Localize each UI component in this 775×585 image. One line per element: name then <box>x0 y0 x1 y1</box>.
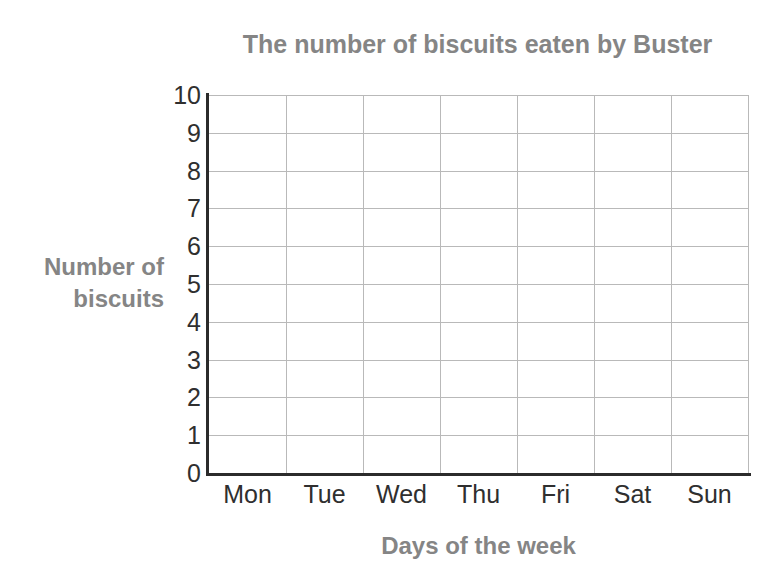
y-tick-label-2: 2 <box>141 385 201 410</box>
plot-area[interactable] <box>209 95 748 473</box>
y-tick-label-9: 9 <box>141 121 201 146</box>
chart-container: The number of biscuits eaten by Buster 1… <box>0 0 775 585</box>
x-tick-label-thu: Thu <box>440 481 517 509</box>
gridline-x-7 <box>748 95 749 473</box>
x-axis-title: Days of the week <box>209 532 748 560</box>
chart-title: The number of biscuits eaten by Buster <box>190 30 765 59</box>
y-tick-label-8: 8 <box>141 159 201 184</box>
x-tick-label-sat: Sat <box>594 481 671 509</box>
y-axis-title-line-1: Number of <box>0 251 164 283</box>
x-axis-line <box>206 473 751 476</box>
x-tick-label-tue: Tue <box>286 481 363 509</box>
y-tick-label-1: 1 <box>141 423 201 448</box>
y-tick-label-7: 7 <box>141 196 201 221</box>
x-tick-label-sun: Sun <box>671 481 748 509</box>
y-axis-line <box>206 93 209 476</box>
x-tick-label-fri: Fri <box>517 481 594 509</box>
x-axis-tick-labels: MonTueWedThuFriSatSun <box>209 481 748 515</box>
bar-series <box>209 95 748 473</box>
y-tick-label-10: 10 <box>141 83 201 108</box>
y-tick-label-0: 0 <box>141 461 201 486</box>
y-axis-title: Number of biscuits <box>0 251 164 315</box>
x-tick-label-wed: Wed <box>363 481 440 509</box>
y-tick-label-3: 3 <box>141 348 201 373</box>
x-tick-label-mon: Mon <box>209 481 286 509</box>
y-axis-title-line-2: biscuits <box>0 283 164 315</box>
